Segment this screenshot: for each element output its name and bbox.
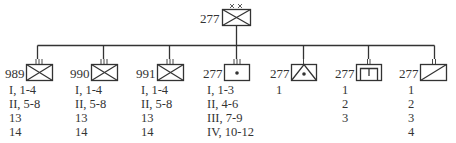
subunit-line: 14 — [75, 125, 88, 139]
division-marker-icon — [230, 4, 242, 8]
subunit-line: 3 — [342, 111, 348, 125]
subunit-line: II, 5-8 — [9, 97, 40, 111]
child-unit-id: 277 — [335, 67, 355, 81]
subunit-line: 4 — [408, 125, 414, 139]
child-unit-id: 277 — [203, 67, 223, 81]
subunit-line: III, 7-9 — [207, 111, 242, 125]
antitank-battalion-icon — [292, 59, 317, 81]
subunit-line: 14 — [141, 125, 154, 139]
subunit-line: 2 — [342, 97, 348, 111]
artillery-regiment-icon — [225, 59, 250, 81]
engineer-battalion-icon — [357, 59, 382, 81]
subunit-line: 3 — [408, 111, 414, 125]
subunit-line: II, 5-8 — [75, 97, 106, 111]
infantry-regiment-icon — [92, 59, 118, 81]
child-unit-id: 991 — [136, 67, 156, 81]
subunit-line: I, 1-4 — [9, 83, 36, 97]
infantry-regiment-icon — [27, 59, 53, 81]
subunit-line: 13 — [75, 111, 88, 125]
subunit-line: I, 1-4 — [141, 83, 168, 97]
subunit-line: 13 — [9, 111, 22, 125]
subunit-line: 1 — [408, 83, 414, 97]
child-unit-id: 990 — [70, 67, 90, 81]
subunit-line: 1 — [276, 83, 282, 97]
subunit-line: 13 — [141, 111, 154, 125]
child-unit-id: 989 — [5, 67, 25, 81]
subunit-line: I, 1-3 — [207, 83, 234, 97]
child-unit-id: 277 — [270, 67, 290, 81]
subunit-line: IV, 10-12 — [207, 125, 254, 139]
parent-unit-id: 277 — [200, 12, 220, 26]
child-unit-id: 277 — [399, 67, 419, 81]
infantry-regiment-icon — [158, 59, 184, 81]
subunit-line: 14 — [9, 125, 22, 139]
subunit-line: 1 — [342, 83, 348, 97]
subunit-line: II, 4-6 — [207, 97, 238, 111]
parent-unit-symbol — [223, 4, 251, 26]
subunit-line: 2 — [408, 97, 414, 111]
reconnaissance-battalion-icon — [421, 59, 447, 81]
subunit-line: II, 5-8 — [141, 97, 172, 111]
subunit-line: I, 1-4 — [75, 83, 102, 97]
